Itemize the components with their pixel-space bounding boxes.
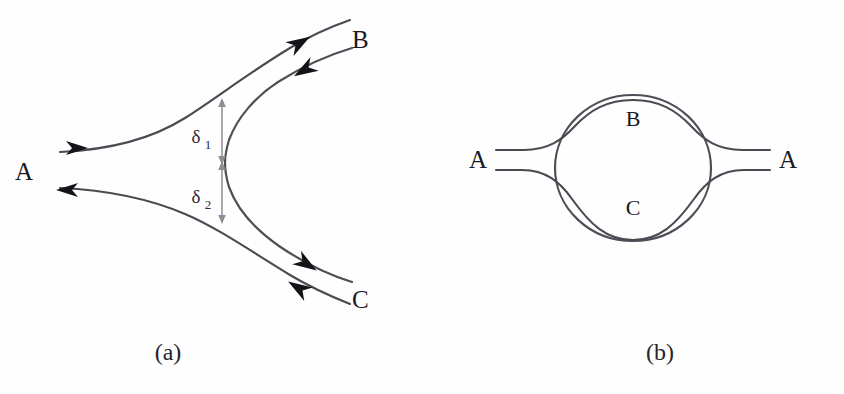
curve-b-lower [225,48,352,163]
measure-tip-top [218,98,226,107]
measure-tip-bottom [218,215,226,224]
delta2-symbol: δ [192,186,201,207]
panel-a-label-delta2: δ 2 [192,186,212,212]
arrow-b-outflow [285,30,314,56]
curve-c-upper [225,163,352,282]
delta1-symbol: δ [192,126,201,147]
panel-b-caption: (b) [646,339,674,365]
figure-container: A B C δ 1 δ 2 (a) A A [0,0,844,394]
panel-b-label-A-right: A [779,146,797,173]
figure-svg: A B C δ 1 δ 2 (a) A A [0,0,844,394]
panel-b-label-C: C [626,195,641,220]
panel-b-label-A-left: A [469,146,487,173]
panel-b: A A B C (b) [469,95,797,365]
arrow-c-outflow [292,251,321,277]
arrow-b-inflow [290,57,319,83]
arrow-a-inflow [60,141,88,155]
delta2-subscript: 2 [205,197,212,212]
panel-a-caption: (a) [155,339,182,365]
panel-a-label-B: B [352,26,369,53]
delta1-subscript: 1 [205,137,212,152]
panel-b-label-B: B [626,106,641,131]
panel-a-label-delta1: δ 1 [192,126,212,152]
panel-a: A B C δ 1 δ 2 (a) [15,20,369,365]
panel-a-label-C: C [352,286,369,313]
panel-a-label-A: A [15,158,33,185]
